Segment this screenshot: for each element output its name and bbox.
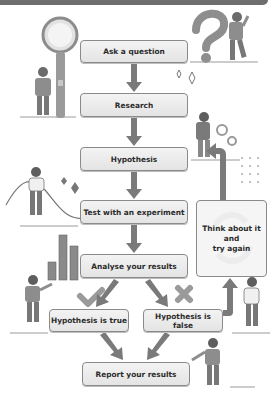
step-research: Research [80, 93, 188, 117]
step-hypothesis-true: Hypothesis is true [49, 309, 129, 332]
dots-grid-icon [241, 157, 259, 183]
person-illustration-7 [192, 338, 220, 385]
step-analyse-results: Analyse your results [80, 254, 188, 278]
think-try-again-box: Think about it and try again [196, 200, 267, 277]
think-line-3: try again [213, 244, 251, 254]
step-hypothesis: Hypothesis [80, 147, 188, 171]
sparkle-icon [177, 70, 195, 84]
think-line-2: and [224, 234, 240, 244]
think-line-1: Think about it [202, 224, 260, 234]
step-hypothesis-false: Hypothesis is false [143, 309, 223, 332]
person-illustration-4 [29, 167, 44, 215]
person-illustration-1 [35, 67, 51, 115]
question-mark-icon [196, 14, 224, 63]
cross-mark-icon [178, 288, 190, 300]
gears-icon [217, 125, 236, 145]
step-report-results: Report your results [82, 362, 190, 386]
step-test-experiment: Test with an experiment [80, 200, 188, 224]
person-illustration-6 [244, 277, 259, 326]
person-illustration-2 [229, 12, 248, 60]
sparkle-icon [61, 177, 79, 194]
step-ask-question: Ask a question [80, 40, 188, 63]
bar-chart-icon [48, 235, 78, 280]
person-illustration-5 [25, 275, 52, 322]
